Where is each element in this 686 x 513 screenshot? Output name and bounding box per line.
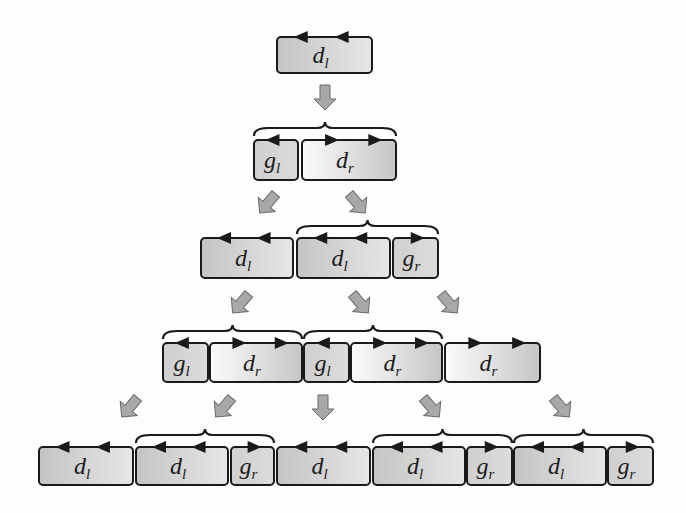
segment-gl: gl [254,134,298,180]
grouping-brace [163,325,302,339]
block-arrow-down-icon [312,395,334,420]
block-arrow-down-right-icon [433,287,466,320]
segment-dl: dl [514,441,606,485]
segment-gr: gr [231,441,274,485]
block-arrow-down-right-icon [344,287,377,320]
block-arrow-down-left-icon [207,391,240,424]
segment-dr: dr [210,337,302,382]
segment-dr: dr [351,337,442,382]
segment-dr: dr [445,337,540,382]
grouping-brace [373,429,512,443]
segment-dl: dl [136,441,228,485]
grouping-brace [254,122,396,136]
grouping-brace [304,325,442,339]
segment-gr: gr [393,232,438,278]
block-arrow-down-left-icon [113,391,146,424]
segment-dl: dl [373,441,465,485]
recursive-decomposition-diagram: dlgldrdldlgrgldrgldrdrdldlgrdldlgrdlgr [0,0,686,513]
segment-dl: dl [201,232,293,278]
segment-gr: gr [467,441,512,485]
segment-gl: gl [163,337,208,382]
block-arrow-down-left-icon [224,287,257,320]
segment-dr: dr [302,134,396,180]
block-arrow-down-right-icon [415,391,448,424]
segment-gr: gr [608,441,653,485]
segment-dl: dl [39,441,133,485]
segment-dl: dl [297,232,390,278]
segment-dl: dl [277,31,372,73]
segment-dl: dl [277,441,370,485]
grouping-brace [297,220,438,234]
block-arrow-down-icon [314,85,336,110]
grouping-brace [514,429,653,443]
grouping-brace [136,429,274,443]
block-arrow-down-right-icon [545,391,578,424]
block-arrow-down-right-icon [341,187,374,220]
diagram-canvas: dlgldrdldlgrgldrgldrdrdldlgrdldlgrdlgr [0,0,686,513]
boxes-layer: dlgldrdldlgrgldrgldrdrdldlgrdldlgrdlgr [39,31,653,485]
segment-gl: gl [304,337,349,382]
block-arrow-down-left-icon [251,187,284,220]
